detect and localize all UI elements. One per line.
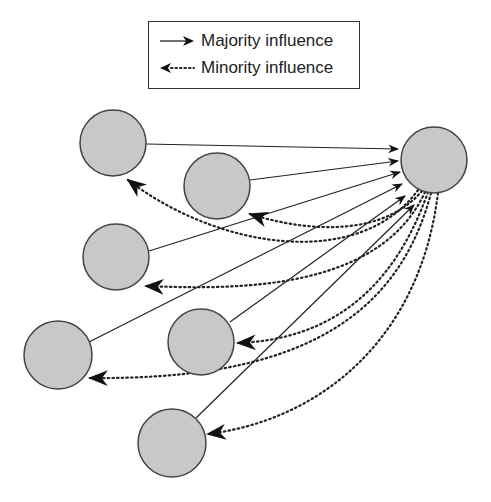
nodes xyxy=(24,110,467,477)
minority-arrows xyxy=(90,180,438,434)
member-node-1 xyxy=(80,110,146,176)
minority-arrow-5 xyxy=(90,193,431,378)
target-node xyxy=(401,127,467,193)
member-node-4 xyxy=(24,321,92,389)
majority-arrow-2 xyxy=(250,161,398,180)
legend-majority: Majority influence xyxy=(159,31,333,51)
solid-arrow-icon xyxy=(159,35,195,47)
member-node-2 xyxy=(184,153,250,219)
member-node-6 xyxy=(138,409,206,477)
legend-majority-label: Majority influence xyxy=(201,31,333,51)
majority-arrow-6 xyxy=(196,205,414,418)
dotted-arrow-icon xyxy=(159,62,195,74)
majority-arrow-5 xyxy=(230,196,405,322)
member-node-5 xyxy=(168,309,234,375)
member-node-3 xyxy=(83,224,149,290)
minority-arrow-3 xyxy=(146,192,425,287)
legend-minority: Minority influence xyxy=(159,58,333,78)
majority-arrow-1 xyxy=(146,144,398,149)
legend: Majority influence Minority influence xyxy=(148,21,360,89)
legend-minority-label: Minority influence xyxy=(201,58,333,78)
minority-arrow-1 xyxy=(128,180,418,242)
